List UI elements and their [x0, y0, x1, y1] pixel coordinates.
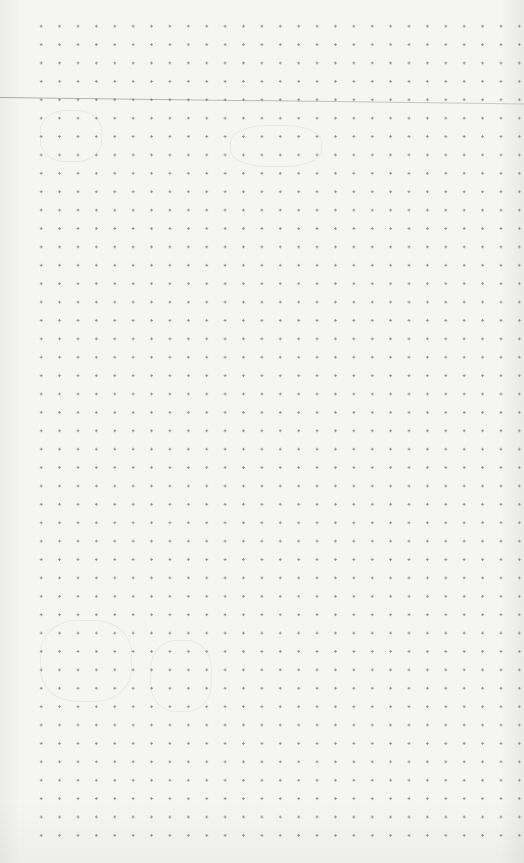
faint-sketch-mark — [40, 620, 132, 702]
faint-sketch-mark — [150, 640, 212, 712]
dot-grid-paper — [0, 0, 524, 863]
faint-sketch-mark — [40, 110, 102, 162]
faint-sketch-mark — [230, 125, 322, 167]
